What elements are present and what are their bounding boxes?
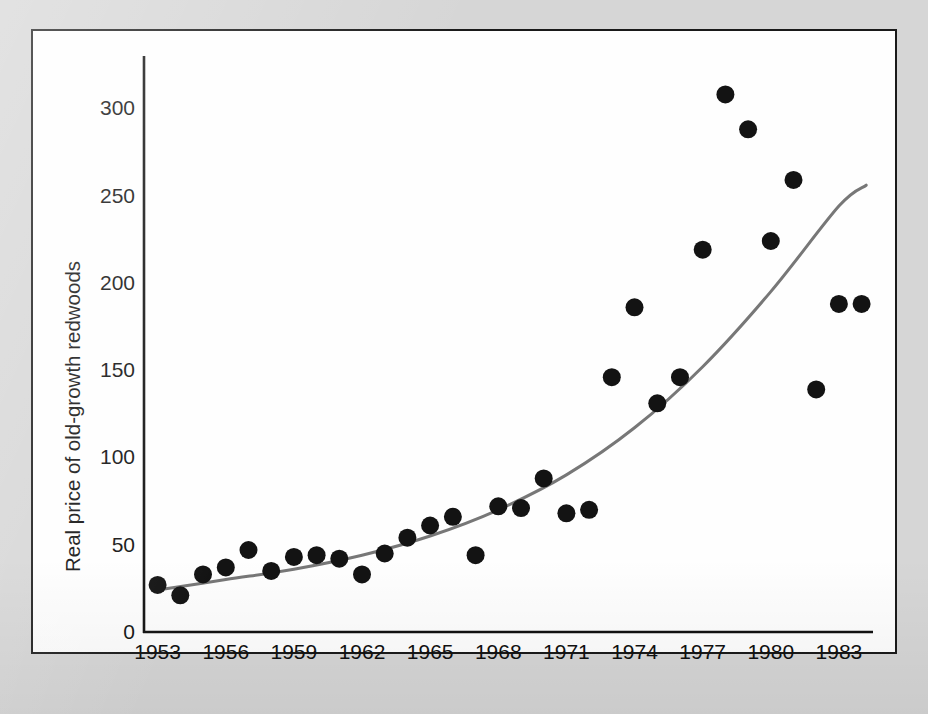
data-point bbox=[603, 368, 621, 386]
data-point bbox=[308, 546, 326, 564]
x-tick-label: 1983 bbox=[794, 641, 884, 662]
chart-frame: Real price of old-growth redwoods 050100… bbox=[31, 29, 897, 654]
data-point bbox=[376, 545, 394, 563]
data-point bbox=[762, 232, 780, 250]
data-point bbox=[807, 380, 825, 398]
data-point bbox=[444, 508, 462, 526]
y-tick-label: 250 bbox=[100, 185, 135, 206]
y-tick-label: 0 bbox=[123, 621, 135, 642]
data-point bbox=[467, 546, 485, 564]
data-point bbox=[398, 529, 416, 547]
data-point bbox=[648, 394, 666, 412]
data-point bbox=[512, 499, 530, 517]
data-point bbox=[421, 517, 439, 535]
data-point bbox=[194, 565, 212, 583]
data-point bbox=[240, 541, 258, 559]
scatter-plot-canvas bbox=[33, 31, 895, 652]
data-point bbox=[580, 501, 598, 519]
data-point bbox=[785, 171, 803, 189]
data-point bbox=[171, 586, 189, 604]
data-point bbox=[217, 558, 235, 576]
data-point bbox=[353, 565, 371, 583]
data-point bbox=[557, 504, 575, 522]
data-point bbox=[671, 368, 689, 386]
y-tick-label: 50 bbox=[112, 534, 135, 555]
data-point bbox=[535, 469, 553, 487]
data-point bbox=[830, 295, 848, 313]
data-point bbox=[489, 497, 507, 515]
y-tick-label: 150 bbox=[100, 359, 135, 380]
data-point bbox=[739, 120, 757, 138]
y-tick-label: 300 bbox=[100, 97, 135, 118]
data-point bbox=[330, 550, 348, 568]
y-tick-label: 200 bbox=[100, 272, 135, 293]
data-point-group bbox=[149, 85, 871, 604]
y-tick-label: 100 bbox=[100, 446, 135, 467]
trend-curve bbox=[158, 185, 867, 590]
y-axis-label: Real price of old-growth redwoods bbox=[61, 261, 85, 572]
data-point bbox=[149, 576, 167, 594]
data-point bbox=[694, 241, 712, 259]
figure-page: Real price of old-growth redwoods 050100… bbox=[0, 0, 928, 714]
data-point bbox=[853, 295, 871, 313]
data-point bbox=[262, 562, 280, 580]
data-point bbox=[626, 298, 644, 316]
data-point bbox=[285, 548, 303, 566]
data-point bbox=[716, 85, 734, 103]
